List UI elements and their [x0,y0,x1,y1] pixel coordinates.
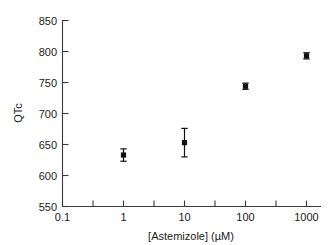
axis-spines [63,21,321,207]
y-axis-tick-labels: 850 800 750 700 650 600 550 [39,15,57,213]
y-tick-label-750: 750 [39,77,57,89]
data-points-layer [120,53,309,162]
data-point [181,128,187,157]
x-axis-title: [Astemizole] (µM) [148,230,234,242]
data-point-marker [304,53,309,58]
chart-figure: 850 800 750 700 650 600 550 0.1 1 10 100 [0,0,335,245]
y-tick-label-700: 700 [39,108,57,120]
y-tick-label-850: 850 [39,15,57,27]
y-axis-ticks [63,21,69,207]
x-tick-label-1000: 1000 [294,211,318,223]
data-point [242,83,248,89]
x-tick-label-10: 10 [178,211,190,223]
x-tick-label-0.1: 0.1 [55,211,70,223]
data-point-marker [182,140,187,145]
data-point-marker [243,84,248,89]
x-tick-label-100: 100 [236,211,254,223]
data-point-marker [121,152,126,157]
y-tick-label-800: 800 [39,46,57,58]
y-tick-label-600: 600 [39,170,57,182]
qtc-vs-astemizole-scatter-plot: 850 800 750 700 650 600 550 0.1 1 10 100 [0,0,335,245]
y-axis-title-text: QTc [12,103,24,123]
data-point [303,53,309,59]
x-axis-ticks [63,201,307,207]
y-tick-label-650: 650 [39,139,57,151]
data-point [120,149,126,161]
x-axis-tick-labels: 0.1 1 10 100 1000 [55,211,319,223]
x-tick-label-1: 1 [120,211,126,223]
